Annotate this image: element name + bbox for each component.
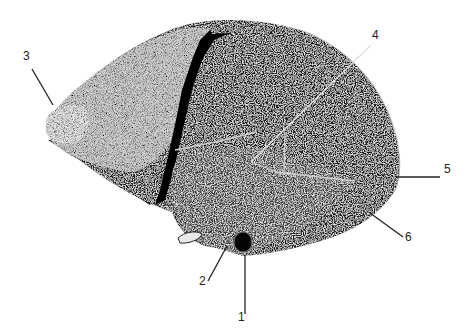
label-1: 1 [238, 311, 245, 323]
leader-line-3 [32, 69, 53, 105]
figure-stage: 123456 [0, 0, 474, 333]
leader-line-2 [208, 246, 227, 281]
auditory-meatus [234, 232, 252, 252]
label-2: 2 [199, 275, 206, 287]
skull-illustration [0, 0, 474, 333]
label-5: 5 [444, 163, 451, 175]
label-3: 3 [23, 50, 30, 62]
leader-line-6 [370, 213, 403, 237]
label-4: 4 [372, 29, 379, 41]
label-6: 6 [405, 231, 412, 243]
